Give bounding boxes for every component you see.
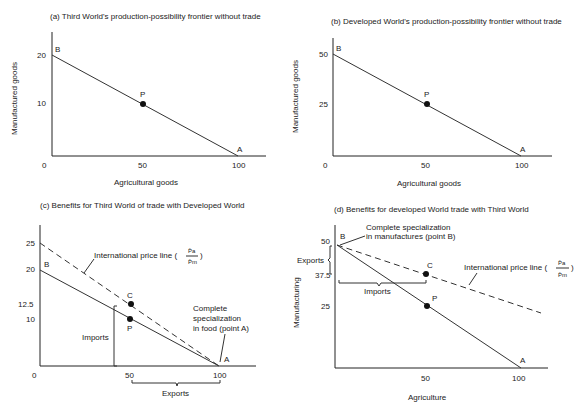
panel-a-label-b: B (55, 45, 60, 54)
panel-d-exports-bracket (328, 246, 332, 274)
panel-b-label-a: A (520, 145, 526, 154)
panel-d-price-num: P̄a (558, 260, 566, 266)
panel-c-exports-bracket (132, 380, 220, 386)
panel-d-ytick: 25 (321, 302, 330, 311)
panel-d-label-b: B (340, 232, 345, 241)
panel-a-title: (a) Third World's production-possibility… (50, 12, 261, 21)
panel-d-xtick: 100 (512, 374, 526, 383)
panel-c-annot: in food (point A) (193, 324, 249, 333)
panel-a-x-label: Agricultural goods (114, 178, 178, 187)
panel-d-y-label: Manufacturing (292, 277, 301, 328)
panel-d: (d) Benefits for developed World trade w… (292, 205, 574, 402)
panel-d-annot: Complete specialization (366, 223, 451, 232)
panel-c-exports-label: Exports (162, 389, 189, 398)
panel-c-label-c: C (127, 291, 133, 300)
panel-d-title: (d) Benefits for developed World trade w… (334, 205, 529, 214)
panel-c-ytick: 10 (26, 315, 35, 324)
panel-d-label-a: A (520, 356, 526, 365)
panel-c-annot: Complete (193, 304, 228, 313)
panel-d-ytick: 37.5 (315, 271, 331, 280)
panel-c-point-c (128, 301, 134, 307)
figure: (a) Third World's production-possibility… (0, 0, 588, 411)
panel-b-y-label: Manufactured goods (291, 60, 300, 133)
panel-a-origin: 0 (42, 161, 47, 170)
panel-c-paren: ) (200, 251, 203, 260)
panel-a-y-label: Manufactured goods (10, 62, 19, 135)
panel-c-label-a: A (224, 355, 230, 364)
panel-d-label-p: P (432, 294, 437, 303)
panel-d-paren: ) (571, 263, 574, 272)
panel-a-label-p: P (140, 90, 145, 99)
panel-c-xtick: 50 (125, 371, 134, 380)
panel-b: (b) Developed World's production-possibi… (291, 17, 562, 188)
panel-b-ytick: 25 (319, 100, 328, 109)
panel-d-price-line (337, 245, 541, 313)
panel-b-xtick: 100 (515, 161, 529, 170)
panel-d-point-p (424, 303, 430, 309)
panel-c-price-label: International price line ( (94, 251, 177, 260)
panel-c-price-leader (84, 259, 94, 273)
panel-a-ytick: 10 (37, 99, 46, 108)
panel-d-point-c (423, 271, 429, 277)
panel-b-ytick: 50 (319, 50, 328, 59)
panel-a-ytick: 20 (37, 51, 46, 60)
panel-c-ytick: 12.5 (18, 300, 34, 309)
panel-a-xtick: 100 (232, 161, 246, 170)
panel-a-xtick: 50 (138, 161, 147, 170)
panel-c-title: (c) Benefits for Third World of trade wi… (40, 201, 245, 210)
panel-c-origin: 0 (32, 371, 37, 380)
panel-b-title: (b) Developed World's production-possibi… (331, 17, 562, 26)
panel-d-annot: in manufactures (point B) (366, 232, 456, 241)
panel-d-price-label: International price line ( (464, 263, 547, 272)
panel-c-imports-bracket (114, 306, 117, 366)
panel-b-label-b: B (336, 44, 341, 53)
panel-c-price-den: P̄m (188, 259, 197, 265)
panel-b-label-p: P (424, 90, 429, 99)
panel-d-xtick: 50 (421, 374, 430, 383)
panel-c-label-p: P (127, 324, 132, 333)
panel-b-xtick: 50 (421, 161, 430, 170)
panel-a: (a) Third World's production-possibility… (10, 12, 266, 187)
panel-d-label-c: C (427, 261, 433, 270)
panel-c-ytick: 25 (26, 239, 35, 248)
panel-d-imports-bracket (339, 280, 426, 286)
panel-c-ytick: 20 (26, 265, 35, 274)
panel-c-price-num: P̄a (188, 248, 196, 254)
panel-b-x-label: Agricultural goods (397, 179, 461, 188)
panel-b-point-p (424, 101, 430, 107)
panel-c-point-p (127, 316, 133, 322)
panel-d-imports-label: Imports (364, 287, 391, 296)
panel-d-price-den: P̄m (558, 272, 567, 278)
panel-d-x-label: Agriculture (408, 393, 447, 402)
panel-c-annot: specialization (193, 314, 241, 323)
panel-c-label-b: B (44, 260, 49, 269)
panel-c-imports-label: Imports (82, 333, 109, 342)
panel-d-ytick: 50 (321, 237, 330, 246)
panel-a-label-a: A (237, 145, 243, 154)
panel-c: (c) Benefits for Third World of trade wi… (18, 201, 256, 398)
panel-d-exports-label: Exports (297, 256, 324, 265)
panel-a-point-p (140, 101, 146, 107)
panel-b-origin: 0 (323, 161, 328, 170)
panel-d-price-leader (469, 273, 477, 285)
panel-c-xtick: 100 (213, 371, 227, 380)
